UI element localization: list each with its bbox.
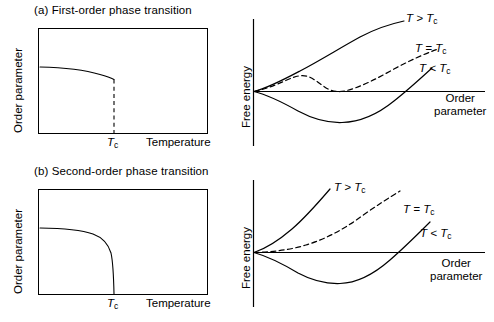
panel-a-xlabel-line2: parameter	[434, 105, 486, 118]
panel-a-curve-T-equal	[254, 49, 438, 92]
panel-b-tc-symbol: T	[107, 297, 114, 309]
panel-b-label-T-equal-sub: c	[430, 207, 434, 217]
panel-b-label-T-greater-text: T > T	[334, 181, 361, 193]
panel-b-tc-tick-label: Tc	[107, 297, 118, 309]
panel-b-label-T-less-sub: c	[447, 231, 451, 241]
panel-b-label-T-less: T < Tc	[420, 227, 451, 239]
panel-a-label-T-less: T < Tc	[419, 62, 450, 74]
panel-a-xlabel-temperature: Temperature	[146, 136, 211, 148]
panel-b-left-plot-box	[39, 190, 208, 295]
panel-a-left-plot-box	[39, 29, 208, 134]
panel-a-curve-T-less	[254, 68, 432, 123]
panel-a-tc-tick-label: Tc	[107, 136, 118, 148]
panel-b-xlabel-temperature: Temperature	[146, 297, 211, 309]
panel-b-xlabel-order-parameter: Order parameter	[430, 257, 482, 283]
panel-a-label-T-greater-sub: c	[433, 16, 437, 26]
panel-a-curve-T-greater	[254, 21, 404, 92]
panel-b-ylabel-free-energy: Free energy	[240, 227, 252, 289]
panel-b-label-T-less-text: T < T	[420, 227, 447, 239]
panel-a-label-T-equal-sub: c	[442, 46, 446, 56]
panel-a-ylabel-order-parameter: Order parameter	[12, 48, 24, 133]
panel-second-order: (b) Second-order phase transition Order …	[0, 161, 494, 322]
panel-b-label-T-greater: T > Tc	[334, 181, 365, 193]
phase-transition-figure: (a) First-order phase transition Order p…	[0, 0, 494, 322]
panel-first-order: (a) First-order phase transition Order p…	[0, 0, 494, 161]
panel-a-ylabel-free-energy: Free energy	[240, 66, 252, 128]
panel-b-order-parameter-curve	[40, 228, 114, 294]
panel-a-tc-subscript: c	[114, 140, 118, 150]
panel-a-label-T-greater: T > Tc	[406, 12, 437, 24]
panel-b-label-T-equal-text: T = T	[403, 203, 430, 215]
panel-b-xlabel-line1: Order	[430, 257, 482, 270]
panel-a-order-parameter-curve	[40, 67, 114, 80]
panel-b-curve-T-greater	[254, 189, 330, 253]
panel-b-tc-subscript: c	[114, 301, 118, 311]
panel-a-xlabel-line1: Order	[434, 92, 486, 105]
panel-b-xlabel-line2: parameter	[430, 270, 482, 283]
panel-b-ylabel-order-parameter: Order parameter	[12, 209, 24, 294]
panel-a-label-T-equal-text: T = T	[415, 42, 442, 54]
panel-a-xlabel-order-parameter: Order parameter	[434, 92, 486, 118]
panel-b-label-T-greater-sub: c	[361, 185, 365, 195]
panel-b-curve-T-equal	[254, 191, 400, 253]
panel-a-label-T-equal: T = Tc	[415, 42, 446, 54]
panel-a-label-T-greater-text: T > T	[406, 12, 433, 24]
panel-a-tc-symbol: T	[107, 136, 114, 148]
panel-a-label-T-less-text: T < T	[419, 62, 446, 74]
panel-a-label-T-less-sub: c	[446, 66, 450, 76]
panel-b-label-T-equal: T = Tc	[403, 203, 434, 215]
